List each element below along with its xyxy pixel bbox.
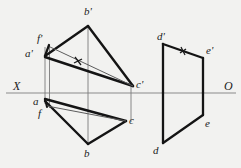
projection-drawing — [0, 0, 241, 168]
label-f: f — [38, 108, 41, 119]
label-d: d — [153, 145, 159, 156]
label-c: c — [129, 115, 134, 126]
edge-bc — [88, 121, 126, 144]
label-e-prime: e' — [206, 45, 213, 56]
upper-auxiliary-lines — [48, 46, 133, 86]
label-c-prime: c' — [136, 79, 143, 90]
edge-bc-prime — [88, 26, 133, 86]
edge-ac — [45, 99, 126, 121]
label-a: a — [33, 96, 39, 107]
label-a-prime: a' — [25, 48, 33, 59]
lower-triangle-abc — [45, 99, 126, 144]
label-f-prime: f' — [37, 33, 42, 44]
edge-ab-prime — [45, 26, 88, 56]
drawing-canvas: b' f' a' c' a f b c d' e' d e X O — [0, 0, 241, 168]
projection-lines — [45, 27, 203, 145]
line-fprime-cprime — [48, 46, 133, 86]
label-e: e — [205, 118, 210, 129]
label-b: b — [84, 148, 90, 159]
label-axis-x: X — [13, 80, 20, 92]
edge-ac-prime — [45, 57, 133, 86]
edge-d-e — [163, 115, 203, 143]
edge-ab — [45, 101, 88, 144]
label-b-prime: b' — [84, 6, 92, 17]
right-lower-shape-de — [163, 93, 203, 143]
label-axis-o: O — [224, 80, 233, 92]
label-d-prime: d' — [157, 31, 165, 42]
upper-triangle-abc — [45, 26, 133, 86]
